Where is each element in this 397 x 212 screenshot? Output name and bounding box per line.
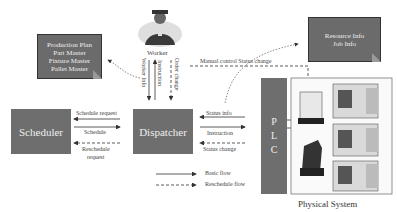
manual-control-arrow bbox=[190, 66, 308, 84]
note-line-production-plan: Production Plan bbox=[38, 41, 101, 49]
note-fold-corner bbox=[93, 70, 102, 79]
machining-center-1-icon bbox=[333, 84, 378, 118]
note-line-part-master: Part Master bbox=[38, 49, 101, 57]
note-line-resource-info: Resource Info bbox=[309, 32, 380, 40]
worker-instruction-label: Instruction bbox=[157, 60, 163, 86]
worker-label: Worker bbox=[147, 49, 168, 57]
note-line-fixture-master: Fixture Master bbox=[38, 57, 101, 65]
plc-block: P L C bbox=[261, 78, 287, 194]
machining-center-2-icon bbox=[333, 124, 378, 156]
scheduler-block: Scheduler bbox=[11, 109, 71, 154]
master-data-note: Production Plan Part Master Fixture Mast… bbox=[37, 34, 102, 79]
schedule-label: Schedule bbox=[84, 129, 106, 135]
status-info-label: Status info bbox=[206, 110, 232, 116]
reschedule-request-label-2: request bbox=[87, 154, 104, 160]
note-line-pallet-master: Pallet Master bbox=[38, 65, 101, 73]
legend-reschedule-flow-label: Reschedule flow bbox=[205, 181, 245, 187]
manual-control-label: Manual control Status change bbox=[200, 58, 271, 64]
worker-figure-icon bbox=[138, 10, 182, 47]
note-fold-corner bbox=[372, 53, 381, 62]
order-change-label: Order change bbox=[174, 58, 180, 90]
dispatcher-block: Dispatcher bbox=[133, 109, 193, 154]
schedule-request-label: Schedule request bbox=[76, 110, 117, 116]
plc-letter-l: L bbox=[271, 129, 277, 143]
status-change-label: Status change bbox=[203, 146, 236, 152]
worker-info-label: Worker Info bbox=[141, 58, 147, 87]
instruction-label: Instruction bbox=[207, 130, 233, 136]
physical-system-label: Physical System bbox=[298, 199, 357, 209]
robot-cell-icon bbox=[298, 92, 324, 124]
machining-center-3-icon bbox=[333, 161, 378, 191]
reschedule-request-label-1: Reschedule bbox=[82, 146, 110, 152]
resource-info-note: Resource Info Job Info bbox=[308, 17, 381, 62]
plc-letter-c: C bbox=[271, 143, 278, 157]
dotted-curve-master bbox=[108, 60, 140, 78]
plc-letter-p: P bbox=[271, 115, 277, 129]
legend-basic-flow-label: Basic flow bbox=[205, 170, 231, 176]
note-line-job-info: Job Info bbox=[309, 40, 380, 48]
